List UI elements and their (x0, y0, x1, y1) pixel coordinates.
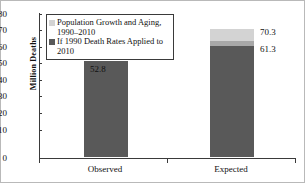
x-axis-label-observed: Observed (55, 164, 155, 174)
bar-segment-expected-base (210, 46, 254, 157)
y-tick-label-50: 50 (0, 59, 7, 68)
y-tick-label-0: 0 (0, 154, 7, 163)
chart-figure: Million Deaths 80 70 60 50 40 30 20 10 0… (0, 0, 305, 183)
y-tick-label-40: 40 (0, 76, 7, 85)
bar-value-expected-total: 70.3 (260, 28, 276, 37)
y-tick-label-10: 10 (0, 126, 7, 135)
x-tick-mark-middle (167, 159, 168, 163)
bar-segment-expected-growth (210, 29, 254, 41)
legend-entry-baseline: If 1990 Death Rates Applied to 2010 (49, 37, 170, 56)
legend-label-growth-line1: Population Growth and Aging, (57, 17, 161, 27)
bar-expected (210, 29, 254, 157)
bar-observed (84, 61, 128, 157)
legend-label-growth: Population Growth and Aging, 1990–2010 (57, 18, 161, 37)
y-tick-label-70: 70 (0, 26, 7, 35)
x-axis-label-expected: Expected (181, 164, 281, 174)
legend-entry-growth: Population Growth and Aging, 1990–2010 (49, 18, 170, 37)
x-tick-mark-right (295, 159, 296, 163)
legend-swatch-baseline-icon (49, 39, 55, 45)
legend-label-baseline: If 1990 Death Rates Applied to 2010 (57, 37, 170, 56)
y-tick-label-80: 80 (0, 10, 7, 19)
y-tick-label-30: 30 (0, 92, 7, 101)
y-tick-label-20: 20 (0, 109, 7, 118)
x-tick-mark-left (39, 159, 40, 163)
bar-segment-observed-base (84, 61, 128, 157)
y-axis-title: Million Deaths (29, 29, 38, 99)
legend-swatch-growth-icon (49, 20, 55, 26)
bar-value-observed-total: 52.8 (90, 65, 106, 74)
chart-legend: Population Growth and Aging, 1990–2010 I… (46, 14, 174, 60)
y-tick-label-60: 60 (0, 43, 7, 52)
bar-value-expected-base: 61.3 (260, 45, 276, 54)
legend-label-growth-line2: 1990–2010 (57, 27, 95, 37)
